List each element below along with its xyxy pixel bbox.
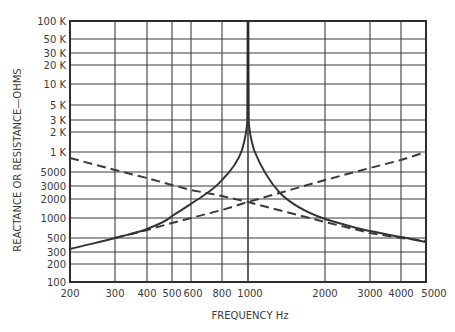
svg-text:300: 300 [47, 247, 66, 258]
y-axis-title: REACTANCE OR RESISTANCE—OHMS [12, 68, 23, 251]
svg-text:1 K: 1 K [50, 147, 67, 158]
svg-text:10 K: 10 K [44, 79, 67, 90]
svg-text:3000: 3000 [41, 181, 66, 192]
svg-text:1000: 1000 [41, 213, 66, 224]
svg-text:500: 500 [162, 288, 181, 299]
svg-text:2000: 2000 [312, 288, 337, 299]
svg-text:800: 800 [212, 288, 231, 299]
svg-text:5000: 5000 [41, 167, 66, 178]
svg-text:100 K: 100 K [37, 16, 66, 27]
y-tick-labels: 100 K 50 K 30 K 20 K 10 K 5 K 3 K 2 K 1 … [37, 16, 66, 288]
svg-text:600: 600 [183, 288, 202, 299]
svg-text:3 K: 3 K [50, 115, 67, 126]
svg-text:5000: 5000 [421, 288, 446, 299]
reactance-chart: 100 K 50 K 30 K 20 K 10 K 5 K 3 K 2 K 1 … [0, 0, 455, 332]
svg-text:300: 300 [105, 288, 124, 299]
x-axis-title: FREQUENCY Hz [212, 310, 289, 321]
series-inductive-reactance [115, 152, 426, 238]
svg-text:30 K: 30 K [44, 48, 67, 59]
svg-text:20 K: 20 K [44, 60, 67, 71]
svg-text:200: 200 [60, 288, 79, 299]
svg-text:100: 100 [47, 277, 66, 288]
svg-text:2000: 2000 [41, 194, 66, 205]
svg-text:200: 200 [47, 259, 66, 270]
svg-text:4000: 4000 [388, 288, 413, 299]
x-tick-labels: 200 300 400 500 600 800 1000 2000 3000 4… [60, 288, 446, 299]
svg-text:500: 500 [47, 233, 66, 244]
svg-text:3000: 3000 [357, 288, 382, 299]
svg-text:400: 400 [137, 288, 156, 299]
svg-text:5 K: 5 K [50, 100, 67, 111]
svg-text:50 K: 50 K [44, 34, 67, 45]
svg-text:2 K: 2 K [50, 127, 67, 138]
svg-text:1000: 1000 [237, 288, 262, 299]
